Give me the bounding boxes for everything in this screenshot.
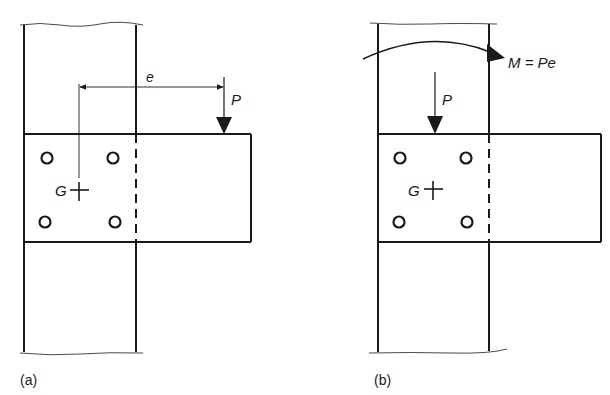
centroid-marker-b <box>424 181 443 200</box>
centroid-marker-a <box>70 182 89 201</box>
centroid-label-a: G <box>55 182 67 199</box>
column-bottom-break-a <box>20 353 143 355</box>
column-bottom-break-b <box>369 349 507 353</box>
centroid-label-b: G <box>408 182 420 199</box>
load-arrow-a <box>216 77 232 134</box>
column-top-break-a <box>20 22 143 26</box>
bolt-icon <box>40 217 51 228</box>
bracket-connection-diagram: G e P (a) <box>0 0 610 395</box>
panel-caption-a: (a) <box>20 372 37 388</box>
bolt-icon <box>461 153 472 164</box>
panel-a: G e P (a) <box>20 22 251 388</box>
bolt-icon <box>42 153 53 164</box>
bolt-icon <box>394 217 405 228</box>
bolt-icon <box>110 217 121 228</box>
eccentricity-label-a: e <box>146 69 154 85</box>
bolt-icon <box>462 217 473 228</box>
moment-label-b: M = Pe <box>508 54 556 71</box>
load-label-a: P <box>231 91 241 108</box>
load-arrow-b <box>427 72 443 134</box>
bolt-icon <box>108 153 119 164</box>
moment-arrow-b <box>363 42 505 62</box>
column-a <box>20 22 143 355</box>
load-label-b: P <box>442 91 452 108</box>
panel-b: G M = Pe P (b) <box>363 23 601 388</box>
panel-caption-b: (b) <box>374 372 391 388</box>
column-b <box>369 23 507 353</box>
bolt-icon <box>395 153 406 164</box>
column-top-break-b <box>370 23 497 24</box>
